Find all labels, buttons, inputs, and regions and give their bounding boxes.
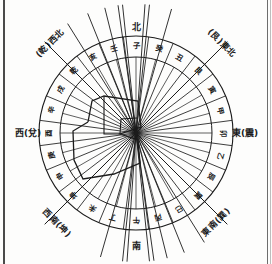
cardinal-label-north: 北	[132, 21, 141, 32]
ring-sector-label: 乙	[215, 151, 226, 161]
diagonal-label-northeast: (艮)東北	[206, 26, 239, 59]
compass-svg: 子癸丑艮寅甲卯乙辰巽巳丙午丁未坤申庚酉辛戌乾亥壬 北南東(震)西(兌)(乾)西北…	[0, 0, 272, 264]
ring-sector-label: 午	[132, 216, 140, 225]
compass-diagram: 子癸丑艮寅甲卯乙辰巽巳丙午丁未坤申庚酉辛戌乾亥壬 北南東(震)西(兌)(乾)西北…	[0, 0, 272, 264]
ring-sector-label: 壬	[109, 43, 119, 54]
ring-sector-label: 未	[86, 203, 98, 215]
cardinal-label-east: 東(震)	[232, 127, 258, 138]
compass-centre-hub	[134, 131, 139, 136]
diagonal-label-northwest: (乾)西北	[33, 26, 66, 59]
ring-sector-label: 丑	[174, 52, 185, 64]
ring-sector-label: 卯	[219, 130, 228, 137]
ring-sector-label: 子	[133, 41, 141, 50]
ring-sector-label: 巳	[174, 203, 185, 215]
ring-sector-label: 巽	[191, 189, 203, 201]
cardinal-label-west: 西(兌)	[15, 127, 41, 138]
ring-sector-label: 亥	[87, 51, 98, 63]
ring-sector-label: 辰	[206, 171, 218, 182]
site-outline-polygon	[73, 96, 141, 179]
ring-sector-label: 丙	[153, 212, 163, 223]
ring-sector-label: 丁	[108, 212, 118, 223]
ring-sector-label: 艮	[192, 66, 204, 78]
ring-sector-label: 癸	[153, 43, 164, 54]
ring-sector-label: 辛	[46, 105, 57, 115]
ring-sector-label: 甲	[215, 106, 226, 115]
ring-sector-label: 寅	[206, 84, 218, 95]
diagonal-label-southeast: 東南(巽)	[199, 205, 232, 238]
ring-sector-label: 酉	[44, 129, 53, 137]
ring-sector-label: 戌	[55, 83, 67, 94]
ring-sector-label: 乾	[69, 65, 81, 77]
scanned-figure-page: 子癸丑艮寅甲卯乙辰巽巳丙午丁未坤申庚酉辛戌乾亥壬 北南東(震)西(兌)(乾)西北…	[0, 0, 272, 264]
cardinal-label-south: 南	[132, 240, 141, 251]
ring-sector-label: 申	[55, 171, 66, 182]
ring-sector-label: 庚	[46, 150, 57, 160]
